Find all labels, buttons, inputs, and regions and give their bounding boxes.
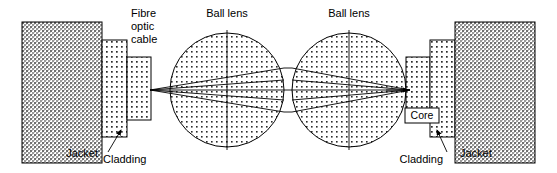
diagram-canvas: Fibre optic cable Ball lens Ball lens Ja… — [0, 0, 557, 173]
ball-lens-right-label: Ball lens — [328, 7, 370, 19]
core-right-label: Core — [411, 109, 434, 121]
jacket-left-label: Jacket — [66, 147, 98, 159]
right-jacket-block — [455, 22, 535, 163]
cladding-left-label: Cladding — [103, 153, 146, 165]
ball-lens-left-label: Ball lens — [206, 7, 248, 19]
core-right-label-group: Core — [405, 108, 439, 123]
cladding-right-label: Cladding — [400, 153, 443, 165]
fibre-optic-ball-lens-diagram: Fibre optic cable Ball lens Ball lens Ja… — [0, 0, 557, 173]
fibre-optic-cable-label: Fibre optic cable — [131, 7, 157, 45]
right-fibre-assembly — [406, 22, 535, 163]
left-jacket-block — [22, 22, 102, 163]
left-cladding-block — [102, 40, 127, 137]
fibre-optic-cable-line-1: Fibre — [131, 7, 156, 19]
jacket-right-label: Jacket — [460, 147, 492, 159]
fibre-optic-cable-line-2: optic — [131, 20, 155, 32]
left-core-block — [127, 57, 151, 120]
fibre-optic-cable-line-3: cable — [131, 33, 157, 45]
